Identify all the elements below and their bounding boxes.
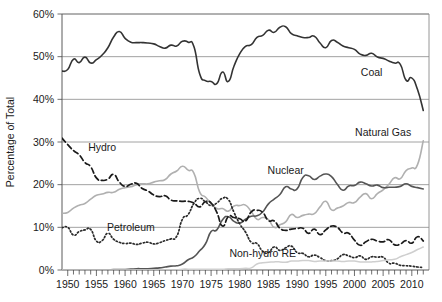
x-tick-label-1985: 1985 — [257, 278, 281, 290]
series-label-non-hydro-re: Non-hydro RE — [229, 247, 296, 259]
series-annotations-group: CoalNatural GasNuclearHydroPetroleumNon-… — [88, 66, 411, 259]
series-label-hydro: Hydro — [88, 141, 116, 153]
x-tick-label-1990: 1990 — [285, 278, 309, 290]
x-tick-label-2000: 2000 — [343, 278, 367, 290]
y-tick-label-10: 10% — [33, 221, 54, 233]
series-label-coal: Coal — [361, 66, 383, 78]
y-axis-tick-labels: 0%10%20%30%40%50%60% — [33, 8, 54, 276]
y-tick-label-50: 50% — [33, 50, 54, 62]
y-tick-label-30: 30% — [33, 136, 54, 148]
series-label-petroleum: Petroleum — [107, 221, 155, 233]
series-line-natural-gas — [62, 141, 423, 228]
x-tick-label-1970: 1970 — [171, 278, 195, 290]
series-label-natural-gas: Natural Gas — [355, 126, 411, 138]
energy-share-line-chart: 0%10%20%30%40%50%60% 1950195519601965197… — [0, 0, 442, 302]
data-series-group — [62, 26, 423, 270]
chart-container: 0%10%20%30%40%50%60% 1950195519601965197… — [0, 0, 442, 302]
y-tick-label-40: 40% — [33, 93, 54, 105]
y-axis-title-text: Percentage of Total — [4, 97, 16, 187]
x-tick-label-1960: 1960 — [113, 278, 137, 290]
y-tick-label-20: 20% — [33, 178, 54, 190]
x-tick-label-1980: 1980 — [228, 278, 252, 290]
series-label-nuclear: Nuclear — [268, 164, 305, 176]
x-axis-tick-labels: 1950195519601965197019751980198519901995… — [56, 278, 424, 290]
y-tick-label-60: 60% — [33, 8, 54, 20]
x-tick-label-1965: 1965 — [142, 278, 166, 290]
x-tick-label-2005: 2005 — [371, 278, 395, 290]
x-tick-label-1995: 1995 — [314, 278, 338, 290]
x-tick-label-2010: 2010 — [400, 278, 424, 290]
y-axis-title: Percentage of Total — [4, 97, 16, 187]
x-tick-label-1955: 1955 — [85, 278, 109, 290]
x-tick-label-1975: 1975 — [199, 278, 223, 290]
y-tick-label-0: 0% — [39, 264, 54, 276]
x-tick-label-1950: 1950 — [56, 278, 80, 290]
